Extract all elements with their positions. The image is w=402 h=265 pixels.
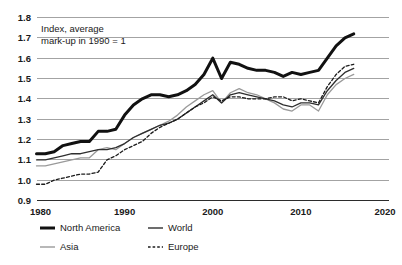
y-axis-tick-labels: 0.91.01.11.21.31.41.51.61.71.8 xyxy=(18,12,32,206)
chart-canvas: 0.91.01.11.21.31.41.51.61.71.8 198019902… xyxy=(0,0,402,265)
y-axis-tick-label: 1.3 xyxy=(18,114,31,125)
x-axis-tick-label: 2020 xyxy=(374,206,395,217)
data-series-group xyxy=(37,34,354,184)
x-axis-tick-label: 2000 xyxy=(202,206,223,217)
legend-label-world: World xyxy=(168,222,193,233)
chart-legend: North AmericaWorldAsiaEurope xyxy=(40,222,199,252)
legend-item-asia[interactable]: Asia xyxy=(40,241,79,252)
series-line-europe xyxy=(37,64,354,184)
series-line-asia xyxy=(37,74,354,165)
annotation-line: Index, average xyxy=(41,23,104,34)
series-line-world xyxy=(37,68,354,160)
legend-item-world[interactable]: World xyxy=(148,222,193,233)
series-line-north-america xyxy=(37,34,354,154)
legend-item-europe[interactable]: Europe xyxy=(148,241,199,252)
y-axis-tick-label: 1.1 xyxy=(18,154,32,165)
y-axis-tick-label: 1.4 xyxy=(18,93,32,104)
legend-label-europe: Europe xyxy=(168,241,199,252)
y-axis-tick-label: 1.7 xyxy=(18,32,31,43)
y-axis-tick-label: 1.6 xyxy=(18,53,31,64)
y-axis-tick-label: 1.2 xyxy=(18,134,31,145)
chart-annotation-text: Index, averagemark-up in 1990 = 1 xyxy=(41,23,126,46)
x-axis-tick-labels: 19801990200020102020 xyxy=(30,206,396,217)
y-axis-tick-label: 1.5 xyxy=(18,73,32,84)
mark-up-index-line-chart: 0.91.01.11.21.31.41.51.61.71.8 198019902… xyxy=(0,0,402,265)
x-axis-tick-label: 1990 xyxy=(114,206,135,217)
legend-label-asia: Asia xyxy=(60,241,79,252)
x-axis-tick-label: 1980 xyxy=(30,206,51,217)
y-axis-tick-label: 1.0 xyxy=(18,175,31,186)
legend-label-north-america: North America xyxy=(60,222,121,233)
x-axis-tick-label: 2010 xyxy=(290,206,311,217)
y-axis-tick-label: 1.8 xyxy=(18,12,31,23)
y-axis-tick-label: 0.9 xyxy=(18,195,31,206)
annotation-line: mark-up in 1990 = 1 xyxy=(41,35,126,46)
legend-item-north-america[interactable]: North America xyxy=(40,222,121,233)
